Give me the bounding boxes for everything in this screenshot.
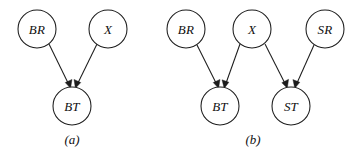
edge-x-to-bt: [74, 44, 97, 88]
panel-b: BR X SR BT ST (b): [167, 10, 344, 147]
node-sr-b[interactable]: SR: [306, 10, 344, 48]
node-label: BT: [64, 99, 80, 114]
edge-sr-to-st: [293, 45, 314, 88]
panel-a: BR X BT (a): [18, 10, 127, 147]
node-br-a[interactable]: BR: [18, 10, 56, 48]
node-br-b[interactable]: BR: [167, 10, 205, 48]
node-st-b[interactable]: ST: [272, 87, 310, 125]
node-label: BR: [29, 22, 45, 37]
edge-x-to-bt: [222, 44, 240, 88]
node-label: BR: [178, 22, 194, 37]
node-bt-a[interactable]: BT: [53, 87, 91, 125]
node-label: ST: [284, 99, 299, 114]
node-label: SR: [318, 22, 333, 37]
edge-x-to-st: [265, 44, 289, 88]
edge-br-to-bt: [197, 45, 220, 88]
edge-br-to-bt: [49, 44, 72, 88]
panel-b-edges: [197, 44, 314, 88]
node-label: X: [103, 22, 113, 37]
panel-b-caption: (b): [245, 132, 260, 147]
causal-dag-figure: BR X BT (a): [0, 0, 361, 158]
panel-a-caption: (a): [64, 132, 79, 147]
node-label: X: [247, 22, 257, 37]
panel-a-edges: [49, 44, 97, 88]
dag-canvas: BR X BT (a): [0, 0, 361, 158]
node-bt-b[interactable]: BT: [201, 87, 239, 125]
node-x-b[interactable]: X: [233, 10, 271, 48]
node-label: BT: [212, 99, 228, 114]
node-x-a[interactable]: X: [89, 10, 127, 48]
